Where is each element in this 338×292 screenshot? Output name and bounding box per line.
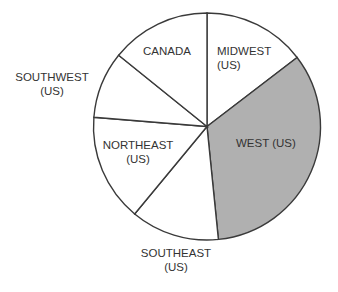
label-canada: CANADA (143, 44, 191, 58)
label-midwest: MIDWEST (US) (217, 44, 271, 72)
label-west: WEST (US) (236, 136, 296, 150)
label-southeast: SOUTHEAST (US) (136, 246, 216, 274)
label-canada-line1: CANADA (143, 44, 191, 58)
label-southwest-line2: (US) (14, 84, 90, 98)
label-southeast-line2: (US) (136, 260, 216, 274)
label-southwest: SOUTHWEST (US) (14, 70, 90, 98)
label-midwest-line1: MIDWEST (217, 44, 271, 58)
label-northeast-line1: NORTHEAST (100, 138, 176, 152)
label-northeast-line2: (US) (100, 152, 176, 166)
label-southwest-line1: SOUTHWEST (14, 70, 90, 84)
label-midwest-line2: (US) (217, 58, 271, 72)
label-southeast-line1: SOUTHEAST (136, 246, 216, 260)
label-west-line1: WEST (US) (236, 136, 296, 150)
label-northeast: NORTHEAST (US) (100, 138, 176, 166)
